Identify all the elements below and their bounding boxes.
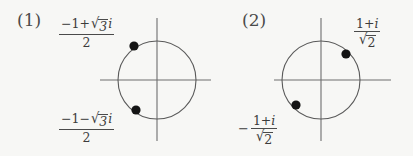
radical-sign: √ [256,129,264,144]
panel-2-point-root-lower-left [291,100,300,109]
radicand: 3 [98,114,108,128]
fraction-numerator: 1+ i [354,17,380,31]
fraction-denominator: 2 [81,130,93,144]
radical-sign: √ [91,15,99,30]
square-root-icon: √ 2 [358,33,376,49]
numerator-prefix: 1+ [253,114,271,127]
denominator-value: 2 [83,131,91,144]
radicand: 2 [366,35,376,49]
panel-1-point-root-lower [131,105,140,114]
denominator-value: 2 [83,36,91,49]
fraction: −1+ √ 3 i 2 [59,17,114,49]
fraction: 1+ i √ 2 [354,17,380,49]
numerator-prefix: 1+ [356,17,374,30]
numerator-suffix: i [108,112,112,125]
numerator-suffix: i [108,17,112,30]
fraction-numerator: 1+ i [251,114,277,128]
fraction: 1+ i √ 2 [251,114,277,146]
complex-plane-figure: (1) (2) −1+ √ 3 [0,0,413,156]
fraction-denominator: √ 2 [253,129,275,146]
numerator-prefix: −1− [61,112,90,125]
fraction-denominator: 2 [81,35,93,49]
numerator-suffix: i [271,114,275,127]
square-root-icon: √ 2 [255,130,273,146]
panel-1-label-root-lower: −1− √ 3 i 2 [57,112,114,144]
radicand: 3 [98,19,108,33]
panel-2-label-root-upper-right: 1+ i √ 2 [352,17,380,49]
panel-2-point-root-upper-right [341,49,350,58]
fraction: −1− √ 3 i 2 [59,112,114,144]
numerator-prefix: −1+ [61,17,90,30]
panel-1-label-root-upper: −1+ √ 3 i 2 [57,17,114,49]
lead-sign: − [238,122,251,137]
fraction-denominator: √ 2 [356,32,378,49]
radicand: 2 [263,132,273,146]
fraction-numerator: −1− √ 3 i [59,112,114,129]
square-root-icon: √ 3 [90,17,108,33]
panel-1-point-root-upper [129,41,138,50]
fraction-numerator: −1+ √ 3 i [59,17,114,34]
panel-1-diagram [100,18,211,141]
numerator-suffix: i [374,17,378,30]
radical-sign: √ [91,110,99,125]
radical-sign: √ [359,32,367,47]
panel-2-label-root-lower-left: − 1+ i √ 2 [238,114,277,146]
square-root-icon: √ 3 [90,112,108,128]
